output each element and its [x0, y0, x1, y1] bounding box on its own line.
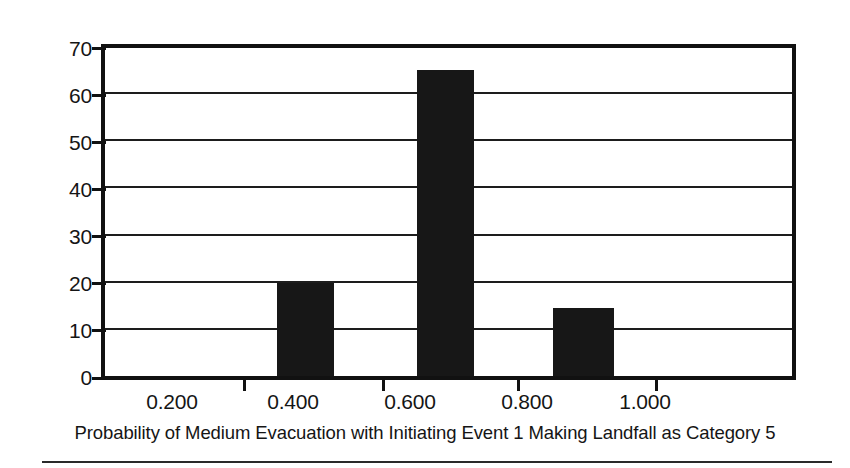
y-tick-label: 70 [50, 38, 92, 59]
y-tick-label: 20 [50, 273, 92, 294]
y-tick-label: 40 [50, 179, 92, 200]
y-axis-tick-labels: 70 60 50 40 30 20 10 0 [44, 0, 92, 468]
x-tick-label: 0.600 [350, 390, 470, 414]
x-axis-line [101, 376, 796, 380]
x-tick-label: 0.400 [233, 390, 353, 414]
x-tick-label: 1.000 [585, 390, 705, 414]
x-tick-label: 0.200 [112, 390, 232, 414]
page-divider-rule [42, 461, 832, 463]
bar-0600 [417, 70, 474, 376]
plot-right-border [792, 44, 796, 380]
bar-0400 [277, 283, 334, 376]
x-axis-title: Probability of Medium Evacuation with In… [0, 422, 850, 444]
plot-top-border [101, 44, 796, 48]
y-tick-label: 30 [50, 226, 92, 247]
y-axis-line [101, 44, 105, 380]
plot-area [101, 46, 796, 378]
y-tick-label: 10 [50, 320, 92, 341]
bar-0800 [553, 308, 614, 376]
histogram-figure: Percent 70 60 50 40 30 20 10 0 [0, 0, 850, 468]
y-tick-label: 50 [50, 132, 92, 153]
y-tick-label: 0 [50, 367, 92, 388]
x-tick-label: 0.800 [467, 390, 587, 414]
y-tick-label: 60 [50, 85, 92, 106]
